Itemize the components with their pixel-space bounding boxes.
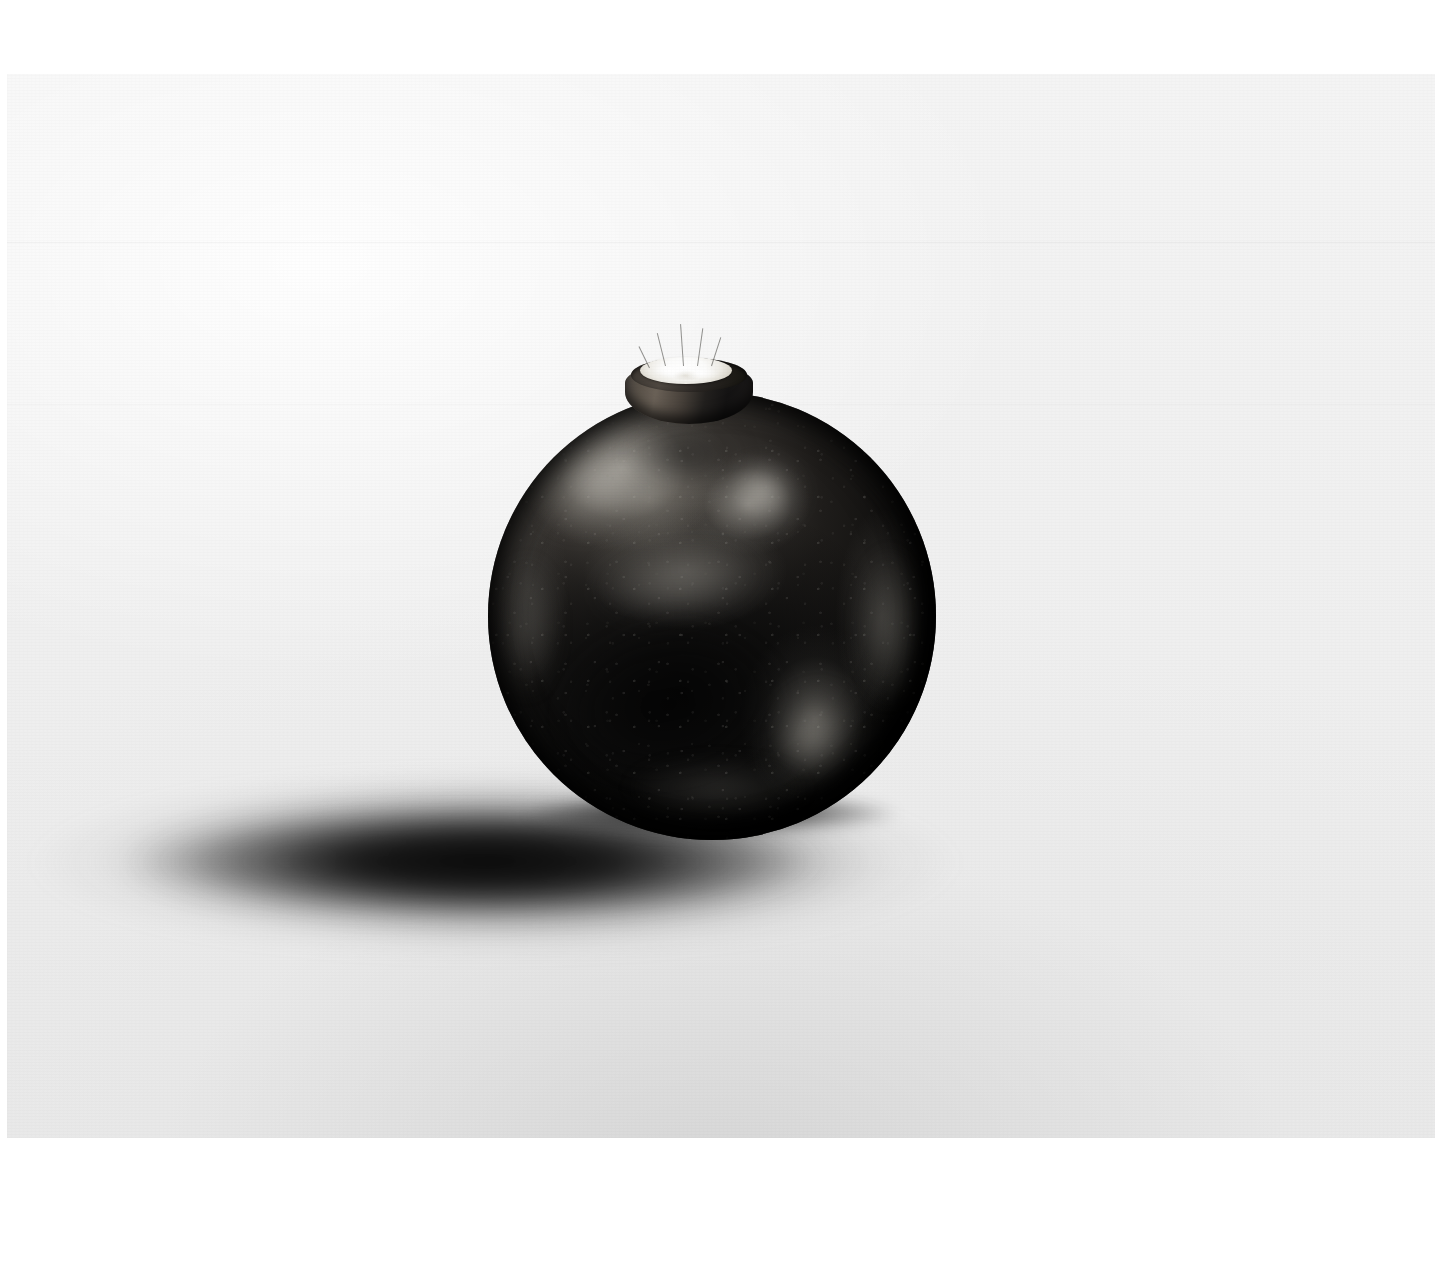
vessel-neck bbox=[625, 362, 753, 424]
vessel-body bbox=[488, 392, 936, 840]
photograph bbox=[7, 74, 1435, 1138]
vessel-body-texture bbox=[488, 392, 936, 840]
backdrop-seam-upper bbox=[7, 242, 1435, 243]
ceramic-vessel bbox=[482, 362, 942, 852]
photo-page bbox=[0, 0, 1435, 1269]
surface-speckle-texture bbox=[488, 392, 936, 840]
vessel-contents bbox=[640, 357, 732, 384]
